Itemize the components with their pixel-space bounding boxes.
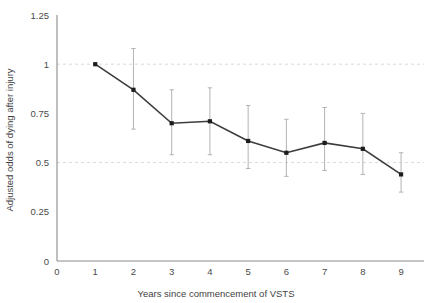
y-tick-label: 0.25 xyxy=(31,206,50,217)
data-point-marker xyxy=(208,119,212,123)
x-tick-label: 7 xyxy=(322,266,327,277)
x-tick-label: 1 xyxy=(93,266,98,277)
data-point-marker xyxy=(93,62,97,66)
data-point-marker xyxy=(284,151,288,155)
data-point-marker xyxy=(131,88,135,92)
y-axis-tick-labels: 00.250.50.7511.25 xyxy=(31,10,50,267)
y-tick-label: 1.25 xyxy=(31,10,50,21)
gridlines-group xyxy=(57,64,424,162)
axes-group xyxy=(57,15,424,261)
x-axis-tick-labels: 0123456789 xyxy=(54,266,403,277)
y-axis-title: Adjusted odds of dying after injury xyxy=(4,68,15,211)
chart-container: 00.250.50.7511.25 0123456789 Years since… xyxy=(0,0,432,303)
x-tick-label: 0 xyxy=(54,266,59,277)
data-point-marker xyxy=(170,121,174,125)
x-tick-label: 6 xyxy=(284,266,289,277)
x-tick-label: 2 xyxy=(131,266,136,277)
x-tick-label: 9 xyxy=(398,266,403,277)
y-tick-label: 0 xyxy=(44,256,49,267)
x-tick-label: 5 xyxy=(245,266,250,277)
error-bars-group xyxy=(131,48,403,192)
x-axis-title: Years since commencement of VSTS xyxy=(138,288,295,299)
y-tick-label: 1 xyxy=(44,59,49,70)
odds-of-dying-line-chart: 00.250.50.7511.25 0123456789 Years since… xyxy=(0,0,432,303)
x-tick-label: 3 xyxy=(169,266,174,277)
data-point-marker xyxy=(361,147,365,151)
data-point-marker xyxy=(323,141,327,145)
x-tick-label: 4 xyxy=(207,266,212,277)
data-point-marker xyxy=(399,172,403,176)
x-tick-label: 8 xyxy=(360,266,365,277)
data-point-marker xyxy=(246,139,250,143)
y-tick-label: 0.75 xyxy=(31,108,50,119)
y-tick-label: 0.5 xyxy=(36,157,49,168)
